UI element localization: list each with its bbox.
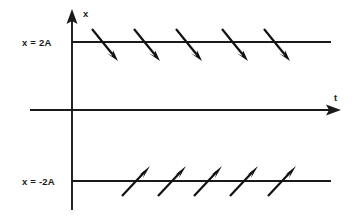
figure-canvas: x t x = 2A x = -2A [0,0,360,224]
horizontal-axis [30,105,341,116]
vertical-axis-label: x [83,8,89,19]
slope-arrow [264,29,290,61]
horizontal-axis-label: t [334,92,338,103]
upper-slope-arrow-group [92,29,290,61]
slope-arrow [222,29,248,61]
slope-arrow [134,29,160,61]
slope-field-figure: x t x = 2A x = -2A [0,0,360,224]
slope-arrow [92,29,118,61]
lower-equilibrium-label: x = -2A [22,176,55,187]
upper-equilibrium-label: x = 2A [22,37,51,48]
slope-arrow [176,29,202,61]
